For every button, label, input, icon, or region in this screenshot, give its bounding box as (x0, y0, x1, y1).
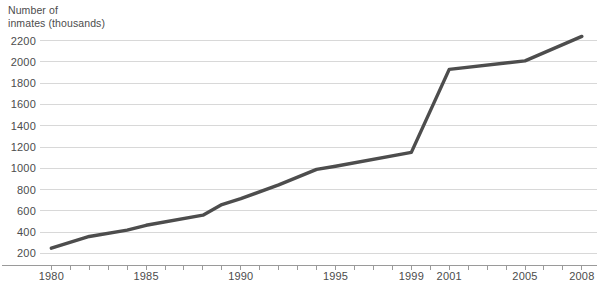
gridlines (40, 41, 597, 254)
chart-canvas (0, 0, 603, 291)
series-line (51, 36, 581, 248)
x-axis-ticks (51, 265, 581, 270)
data-line (51, 36, 581, 248)
inmates-line-chart: Number of inmates (thousands) 2004006008… (0, 0, 603, 291)
